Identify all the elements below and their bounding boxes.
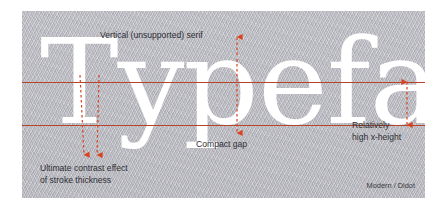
annotation-x-height: Relatively high x-height xyxy=(352,120,401,143)
annotation-line: Compact gap xyxy=(196,139,247,151)
annotation-stroke-contrast: Ultimate contrast effect of stroke thick… xyxy=(40,163,128,186)
annotation-line: Vertical (unsupported) serif xyxy=(100,30,203,42)
x-height-guide-line xyxy=(22,82,425,83)
annotation-line: Relatively xyxy=(352,120,401,132)
annotation-line: of stroke thickness xyxy=(40,175,128,187)
annotation-vertical-serif: Vertical (unsupported) serif xyxy=(100,30,203,42)
annotation-line: high x-height xyxy=(352,132,401,144)
annotation-line: Ultimate contrast effect xyxy=(40,163,128,175)
style-caption: Modern / Didot xyxy=(367,181,415,190)
typography-anatomy-figure: Typeface xyxy=(0,0,442,208)
annotation-compact-gap: Compact gap xyxy=(196,139,247,151)
